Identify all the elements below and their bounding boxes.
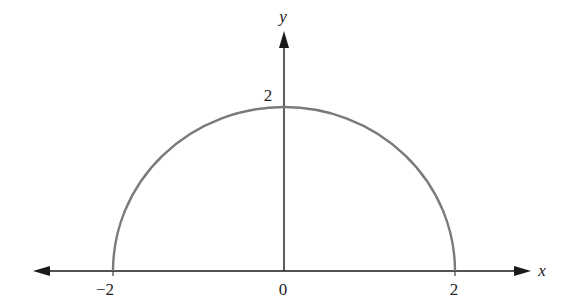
x-axis-label: x (537, 261, 546, 280)
tick-label-0: 0 (279, 280, 288, 299)
x-axis-left-arrow-icon (33, 266, 50, 276)
chart-figure: −2 0 2 2 x y (0, 0, 571, 307)
tick-label-neg2: −2 (96, 280, 114, 299)
y-axis-label: y (277, 7, 287, 26)
tick-label-2: 2 (450, 280, 459, 299)
x-axis-right-arrow-icon (514, 266, 531, 276)
tick-label-y2: 2 (264, 86, 273, 105)
chart-svg: −2 0 2 2 x y (0, 0, 571, 307)
y-axis-up-arrow-icon (279, 31, 289, 48)
